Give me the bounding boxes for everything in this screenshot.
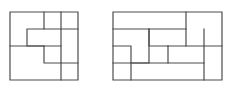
right-rectangle-dissection-panel <box>113 12 222 80</box>
left-square-dissection-panel <box>10 12 78 80</box>
dissection-figure <box>0 0 232 92</box>
